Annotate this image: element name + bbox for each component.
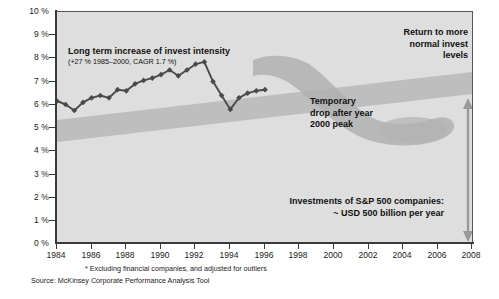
x-tick-label-1996: 1996 [255, 250, 274, 260]
annotation-trend-subtitle: (+27 % 1985–2000, CAGR 1.7 %) [68, 57, 230, 66]
x-tick-1992 [194, 243, 195, 249]
annotation-scale-line-2: ~ USD 500 billion per year [235, 208, 444, 220]
y-tick-6 [49, 104, 56, 105]
y-tick-label-9: 9 % [3, 29, 49, 39]
x-tick-label-1992: 1992 [185, 250, 204, 260]
x-tick-label-1986: 1986 [82, 250, 101, 260]
x-tick-1996 [264, 243, 265, 249]
x-tick-2002 [368, 243, 369, 249]
annotation-drop-line-1: Temporary [310, 96, 373, 108]
x-tick-label-2006: 2006 [428, 250, 447, 260]
x-tick-label-2000: 2000 [324, 250, 343, 260]
y-tick-9 [49, 34, 56, 35]
y-tick-label-7: 7 % [3, 76, 49, 86]
annotation-investment-scale: Investments of S&P 500 companies: ~ USD … [235, 196, 444, 219]
annotation-return-line-3: levels [365, 50, 468, 62]
x-tick-2000 [333, 243, 334, 249]
y-tick-label-10: 10 % [3, 6, 49, 16]
y-tick-label-6: 6 % [3, 99, 49, 109]
chart-root: 10 % 9 % 8 % 7 % 6 % 5 % 4 % 3 % 2 % 1 %… [0, 0, 499, 299]
annotation-scale-line-1: Investments of S&P 500 companies: [235, 196, 444, 208]
annotation-drop-line-3: 2000 peak [310, 119, 373, 131]
footnote-source: Source: McKinsey Corporate Performance A… [31, 276, 209, 285]
footnote-note: * Excluding financial companies, and adj… [85, 264, 267, 273]
x-tick-label-1994: 1994 [220, 250, 239, 260]
x-tick-label-1990: 1990 [151, 250, 170, 260]
y-tick-2 [49, 197, 56, 198]
y-tick-label-3: 3 % [3, 169, 49, 179]
x-tick-label-2004: 2004 [393, 250, 412, 260]
y-tick-5 [49, 127, 56, 128]
x-tick-1990 [160, 243, 161, 249]
y-tick-label-2: 2 % [3, 192, 49, 202]
x-tick-label-1988: 1988 [116, 250, 135, 260]
y-tick-7 [49, 81, 56, 82]
x-tick-label-1984: 1984 [47, 250, 66, 260]
annotation-trend-title: Long term increase of invest intensity [68, 46, 230, 57]
annotation-return-normal: Return to more normal invest levels [365, 27, 468, 62]
annotation-trend: Long term increase of invest intensity (… [68, 46, 230, 66]
x-tick-1984 [56, 243, 57, 249]
annotation-return-line-1: Return to more [365, 27, 468, 39]
y-tick-label-5: 5 % [3, 122, 49, 132]
y-tick-1 [49, 220, 56, 221]
x-tick-1986 [91, 243, 92, 249]
x-tick-label-2002: 2002 [359, 250, 378, 260]
x-tick-1988 [125, 243, 126, 249]
y-tick-4 [49, 150, 56, 151]
x-tick-label-1998: 1998 [289, 250, 308, 260]
annotation-return-line-2: normal invest [365, 39, 468, 51]
x-tick-1998 [298, 243, 299, 249]
x-tick-2006 [437, 243, 438, 249]
annotation-drop-line-2: drop after year [310, 108, 373, 120]
y-tick-8 [49, 57, 56, 58]
y-tick-label-4: 4 % [3, 145, 49, 155]
x-tick-1994 [229, 243, 230, 249]
x-tick-2008 [471, 243, 472, 249]
y-tick-label-1: 1 % [3, 215, 49, 225]
y-tick-3 [49, 174, 56, 175]
trough-highlight-blob [379, 117, 447, 143]
annotation-temporary-drop: Temporary drop after year 2000 peak [310, 96, 373, 131]
y-tick-label-0: 0 % [3, 238, 49, 248]
y-tick-label-8: 8 % [3, 52, 49, 62]
x-tick-2004 [402, 243, 403, 249]
x-tick-label-2008: 2008 [462, 250, 481, 260]
